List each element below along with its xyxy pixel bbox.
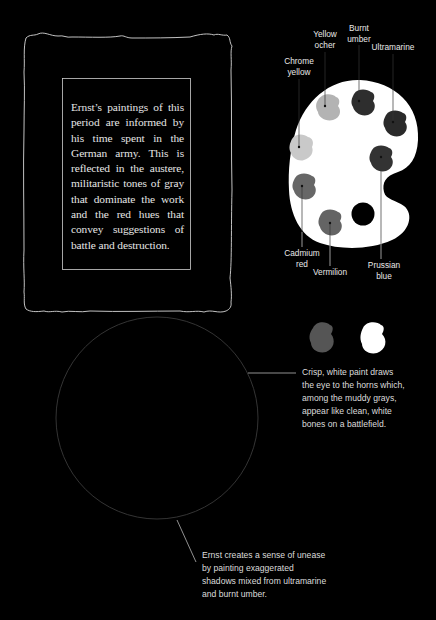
label-line: Cadmium xyxy=(284,248,320,259)
label-ultramarine: Ultramarine xyxy=(372,42,415,53)
description-line: his time spent in the xyxy=(71,131,184,146)
label-burnt-umber: Burnt umber xyxy=(347,23,371,45)
description-line: and the red hues that xyxy=(71,207,184,222)
description-line: convey suggestions of xyxy=(71,222,184,237)
white-paint-swatch xyxy=(360,322,385,353)
graphics-layer xyxy=(0,0,436,620)
label-line: Vermilion xyxy=(313,267,347,278)
painting-description: Ernst’s paintings of this period are inf… xyxy=(71,100,184,253)
annotation-line: by painting exaggerated xyxy=(202,562,326,575)
description-line: period are informed by xyxy=(71,115,184,130)
label-chrome-yellow: Chrome yellow xyxy=(284,56,314,78)
description-line: that dominate the work xyxy=(71,192,184,207)
label-line: yellow xyxy=(284,67,314,78)
horns-annotation: Crisp, white paint draws the eye to the … xyxy=(302,366,405,431)
annotation-line: Crisp, white paint draws xyxy=(302,366,405,379)
annotation-line: Ernst creates a sense of unease xyxy=(202,549,326,562)
label-line: Chrome xyxy=(284,56,314,67)
label-yellow-ocher: Yellow ocher xyxy=(313,29,337,51)
label-line: Yellow xyxy=(313,29,337,40)
description-line: battle and destruction. xyxy=(71,238,184,253)
label-line: umber xyxy=(347,34,371,45)
description-line: Ernst’s paintings of this xyxy=(71,100,184,115)
description-line: reflected in the austere, xyxy=(71,161,184,176)
annotation-line: appear like clean, white xyxy=(302,405,405,418)
description-line: German army. This is xyxy=(71,146,184,161)
blob-chrome-yellow xyxy=(289,135,312,161)
annotation-line: the eye to the horns which, xyxy=(302,379,405,392)
label-line: ocher xyxy=(313,40,337,51)
label-line: Prussian xyxy=(368,260,400,271)
shadows-leader-line xyxy=(177,520,196,562)
annotation-line: among the muddy grays, xyxy=(302,392,405,405)
annotation-line: shadows mixed from ultramarine xyxy=(202,575,326,588)
label-line: Ultramarine xyxy=(372,42,415,53)
gray-paint-swatch xyxy=(310,322,334,352)
label-vermilion: Vermilion xyxy=(313,267,347,278)
label-line: blue xyxy=(368,271,400,282)
detail-circle xyxy=(56,317,258,519)
label-prussian-blue: Prussian blue xyxy=(368,260,400,282)
annotation-line: bones on a battlefield. xyxy=(302,418,405,431)
shadows-annotation: Ernst creates a sense of unease by paint… xyxy=(202,549,326,601)
label-line: Burnt xyxy=(347,23,371,34)
palette-thumb-hole xyxy=(352,203,375,226)
description-line: militaristic tones of gray xyxy=(71,176,184,191)
annotation-line: and burnt umber. xyxy=(202,588,326,601)
